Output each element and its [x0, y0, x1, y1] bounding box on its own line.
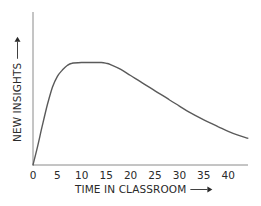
- y-axis-title-group: NEW INSIGHTS: [11, 37, 23, 142]
- x-tick-label: 35: [197, 169, 210, 181]
- x-axis-arrow-icon: [190, 187, 212, 193]
- insights-chart: 0510152025303540 TIME IN CLASSROOM NEW I…: [0, 0, 261, 206]
- x-tick-label: 40: [222, 169, 235, 181]
- x-axis-title: TIME IN CLASSROOM: [74, 183, 186, 195]
- x-tick-labels: 0510152025303540: [30, 169, 235, 181]
- x-tick-label: 30: [173, 169, 186, 181]
- y-axis-arrow-icon: [15, 37, 21, 59]
- x-tick-label: 20: [124, 169, 137, 181]
- x-tick-label: 15: [100, 169, 113, 181]
- insights-curve: [33, 62, 248, 165]
- x-axis-title-group: TIME IN CLASSROOM: [74, 183, 212, 195]
- y-axis-title: NEW INSIGHTS: [11, 63, 23, 142]
- x-tick-label: 25: [148, 169, 161, 181]
- x-tick-label: 10: [75, 169, 88, 181]
- x-tick-label: 5: [54, 169, 61, 181]
- x-tick-label: 0: [30, 169, 37, 181]
